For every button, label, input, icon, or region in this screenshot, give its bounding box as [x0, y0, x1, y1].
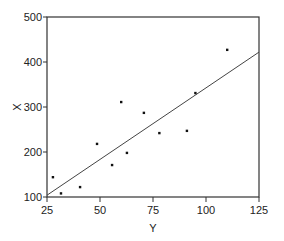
data-point: [126, 152, 128, 154]
data-point: [226, 49, 228, 51]
x-axis-ticks: 255075100125: [41, 197, 268, 216]
data-point: [96, 143, 98, 145]
y-tick-label: 300: [24, 101, 42, 113]
x-tick-label: 75: [147, 204, 159, 216]
y-tick-label: 100: [24, 191, 42, 203]
plot-frame: [47, 17, 259, 197]
y-axis-ticks: 100200300400500: [24, 11, 47, 203]
y-tick-label: 500: [24, 11, 42, 23]
data-point: [186, 130, 188, 132]
data-point: [158, 132, 160, 134]
data-point: [143, 112, 145, 114]
y-tick-label: 200: [24, 146, 42, 158]
data-point: [79, 186, 81, 188]
y-axis-title: X: [11, 103, 23, 111]
regression-line: [47, 52, 259, 195]
x-tick-label: 25: [41, 204, 53, 216]
data-points: [52, 49, 229, 195]
y-tick-label: 400: [24, 56, 42, 68]
x-tick-label: 125: [250, 204, 268, 216]
data-point: [120, 101, 122, 103]
data-point: [194, 92, 196, 94]
x-tick-label: 100: [197, 204, 215, 216]
data-point: [111, 164, 113, 166]
scatter-chart: 255075100125 100200300400500 Y X: [0, 0, 284, 241]
x-tick-label: 50: [94, 204, 106, 216]
data-point: [52, 176, 54, 178]
x-axis-title: Y: [149, 222, 157, 234]
data-point: [60, 192, 62, 194]
